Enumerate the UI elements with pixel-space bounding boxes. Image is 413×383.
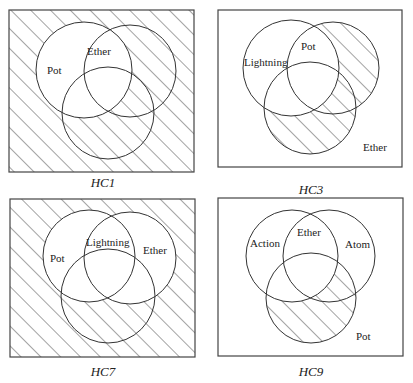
set-label-ether: Ether (143, 244, 167, 256)
shaded-region (218, 198, 403, 356)
venn-hc1: PotEtherHC1 (9, 10, 194, 190)
set-label-ether: Ether (297, 226, 321, 238)
venn-hc3: LightningPotEtherHC3 (218, 10, 402, 197)
shaded-region (10, 199, 195, 357)
diagram-caption: HC7 (90, 364, 116, 379)
set-label-ether: Ether (87, 45, 111, 57)
set-label-action: Action (250, 237, 280, 249)
set-label-pot: Pot (301, 40, 316, 52)
set-label-lightning: Lightning (244, 56, 288, 68)
venn-diagram-figure: PotEtherHC1LightningPotEtherHC3PotLightn… (0, 0, 413, 383)
set-label-lightning: Lightning (86, 236, 130, 248)
set-label-pot: Pot (50, 252, 65, 264)
diagram-caption: HC9 (298, 364, 324, 379)
venn-hc7: PotLightningEtherHC7 (10, 199, 195, 379)
set-label-pot: Pot (47, 64, 62, 76)
diagram-caption: HC1 (90, 175, 116, 190)
set-label-atom: Atom (345, 238, 371, 250)
set-label-pot: Pot (356, 330, 371, 342)
set-label-ether: Ether (363, 141, 387, 153)
venn-hc9: ActionEtherAtomPotHC9 (218, 198, 403, 379)
diagram-caption: HC3 (298, 182, 324, 197)
